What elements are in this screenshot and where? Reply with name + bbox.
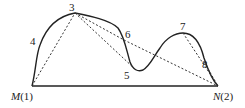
chord-3-5: [75, 13, 136, 70]
label-5: 5: [124, 69, 130, 81]
label-8: 8: [202, 58, 208, 70]
chord-7-n: [183, 33, 218, 86]
label-4: 4: [30, 35, 36, 47]
label-n: N(2): [212, 90, 234, 103]
label-m: M(1): [10, 90, 33, 103]
polygon-approximation-diagram: 3 4 5 6 7 8 M(1) N(2): [0, 0, 245, 108]
label-3: 3: [69, 1, 75, 13]
diagram-svg: 3 4 5 6 7 8 M(1) N(2): [0, 0, 245, 108]
label-6: 6: [125, 28, 131, 40]
label-7: 7: [180, 20, 186, 32]
